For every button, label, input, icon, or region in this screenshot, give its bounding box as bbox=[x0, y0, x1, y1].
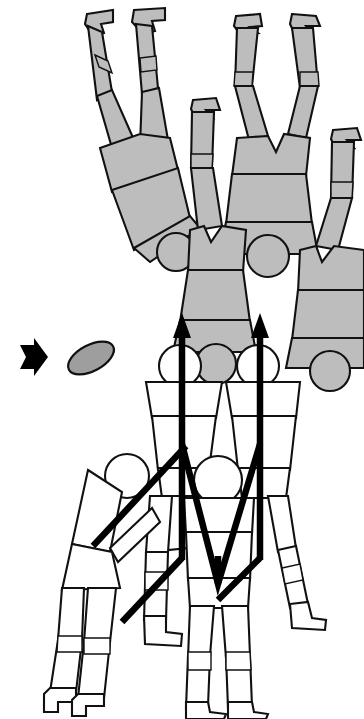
rugby-lineout-illustration bbox=[0, 0, 364, 719]
sock-band bbox=[57, 636, 82, 652]
shorts bbox=[62, 544, 120, 590]
throw-direction-arrow bbox=[20, 338, 48, 376]
boot-icon bbox=[228, 702, 268, 719]
head bbox=[196, 344, 236, 384]
sock-band bbox=[84, 638, 110, 654]
diagram-canvas: Rugby lineout lifting drill Jumpers (sha… bbox=[0, 0, 364, 719]
upper-leg bbox=[84, 588, 116, 642]
sock-band bbox=[226, 652, 251, 670]
head bbox=[310, 351, 350, 391]
shorts bbox=[298, 246, 364, 292]
shorts bbox=[232, 134, 310, 176]
boot-icon bbox=[144, 616, 182, 646]
upper-leg bbox=[235, 86, 268, 140]
upper-leg bbox=[58, 588, 84, 640]
sock-band bbox=[331, 182, 353, 198]
sock-band bbox=[188, 652, 211, 670]
jersey-torso bbox=[232, 416, 296, 470]
shorts bbox=[188, 226, 246, 272]
upper-leg bbox=[188, 606, 214, 658]
sock-band bbox=[191, 154, 213, 168]
upper-leg bbox=[268, 496, 296, 552]
jersey-torso bbox=[180, 270, 250, 322]
boot-icon bbox=[186, 702, 226, 719]
boot-icon bbox=[290, 602, 326, 630]
upper-leg bbox=[288, 86, 318, 138]
head bbox=[194, 456, 242, 504]
boot-icon bbox=[72, 694, 104, 716]
jersey-torso bbox=[226, 174, 312, 224]
rugby-ball bbox=[63, 335, 119, 381]
arrow-right-icon bbox=[20, 338, 48, 376]
sock-band bbox=[140, 56, 157, 72]
jersey-torso bbox=[292, 290, 364, 340]
upper-leg bbox=[191, 168, 222, 230]
upper-leg bbox=[222, 606, 250, 658]
sock-band bbox=[234, 72, 253, 86]
arrowhead-up-icon bbox=[251, 313, 269, 338]
gray-jumper-tilted-left bbox=[85, 8, 200, 271]
head bbox=[247, 235, 289, 277]
upper-leg bbox=[316, 198, 352, 250]
sock-band bbox=[282, 564, 303, 584]
